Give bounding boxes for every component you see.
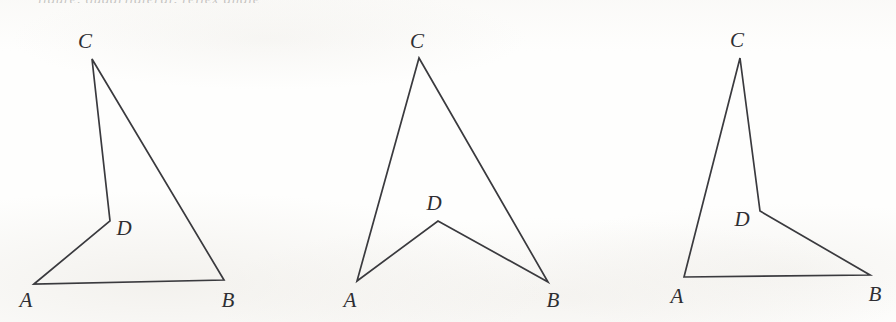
figure-2-label-A: A xyxy=(344,290,357,311)
figure-plate: figure, quadrilateral, reflex angle C D … xyxy=(0,0,896,322)
figure-1-label-C: C xyxy=(78,31,92,52)
figure-1-label-B: B xyxy=(222,290,235,311)
figure-2-label-D: D xyxy=(426,193,441,214)
figure-3-label-B: B xyxy=(869,284,882,305)
figure-2-label-B: B xyxy=(547,290,560,311)
figure-2-shape xyxy=(357,58,548,282)
figure-2-label-C: C xyxy=(410,31,424,52)
figure-1-label-A: A xyxy=(20,290,33,311)
figures-canvas xyxy=(0,0,896,322)
figure-3-label-D: D xyxy=(734,209,749,230)
figure-3-label-A: A xyxy=(671,286,684,307)
figure-1-shape xyxy=(34,59,224,284)
figure-3-label-C: C xyxy=(730,30,744,51)
figure-1-label-D: D xyxy=(116,218,131,239)
figure-3-shape xyxy=(684,58,870,277)
